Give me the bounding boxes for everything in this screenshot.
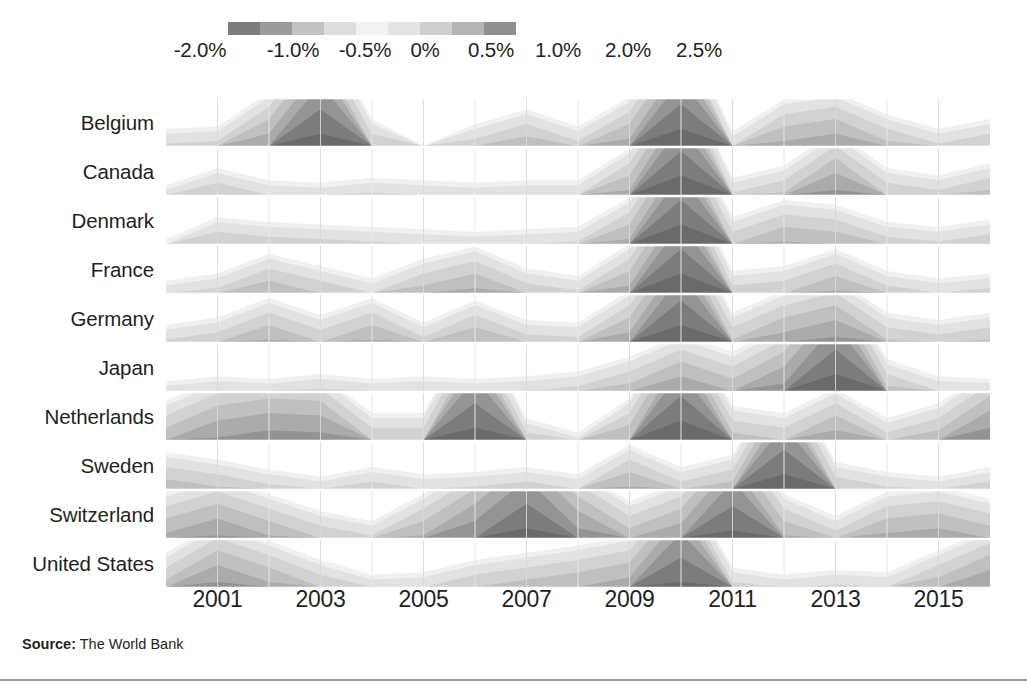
bottom-divider	[0, 679, 1027, 681]
horizon-chart-figure: -2.0%-1.0%-0.5%0%0.5%1.0%2.0%2.5% Belgiu…	[0, 0, 1027, 690]
year-label-2001: 2001	[193, 586, 243, 613]
year-label-2009: 2009	[605, 586, 655, 613]
source-label: Source:	[22, 636, 76, 652]
source-note: Source: The World Bank	[22, 636, 183, 652]
source-value: The World Bank	[76, 636, 183, 652]
plot-area: BelgiumCanadaDenmarkFranceGermanyJapanNe…	[0, 0, 1027, 690]
year-label-2003: 2003	[296, 586, 346, 613]
year-label-2013: 2013	[811, 586, 861, 613]
year-label-2007: 2007	[502, 586, 552, 613]
year-label-2015: 2015	[914, 586, 964, 613]
year-label-2011: 2011	[708, 586, 756, 613]
year-axis-labels: 20012003200520072009201120132015	[0, 0, 1027, 690]
year-label-2005: 2005	[399, 586, 449, 613]
